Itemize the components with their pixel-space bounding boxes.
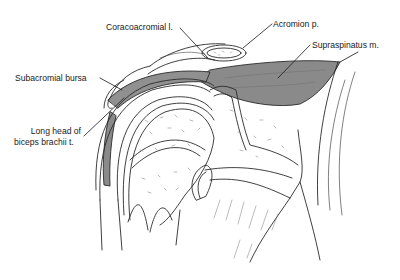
label-coracoacromial-ligament: Coracoacromial l. [106,22,173,32]
label-acromion-process: Acromion p. [273,19,319,29]
label-biceps-line-2: biceps brachii t. [14,137,74,147]
shoulder-anatomy-figure: Coracoacromial l. Acromion p. Supraspina… [0,0,400,280]
rotator-cuff-tendon [108,71,210,108]
supraspinatus-muscle [198,61,340,106]
label-biceps-line-1: Long head of [14,126,81,136]
label-subacromial-bursa: Subacromial bursa [15,73,87,83]
label-supraspinatus-muscle: Supraspinatus m. [312,40,379,50]
